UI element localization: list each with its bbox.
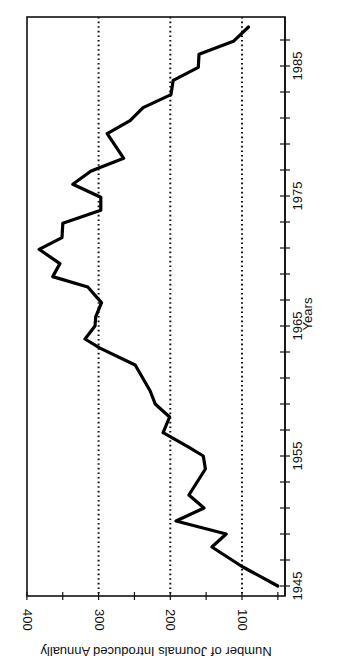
y-axis-label: Number of Journals Introduced Annually	[40, 644, 272, 659]
x-tick-label: 1975	[290, 182, 305, 211]
dotted-gridlines	[99, 17, 242, 596]
x-tick-label: 1955	[290, 442, 305, 471]
x-tick-label: 1985	[290, 52, 305, 81]
y-tick-label: 400	[20, 609, 35, 631]
journals-line-chart: 19451955196519751985 100200300400 Years …	[0, 0, 337, 665]
value-axis-ticks: 100200300400	[20, 592, 278, 631]
y-tick-label: 300	[92, 609, 107, 631]
x-tick-label: 1945	[290, 572, 305, 601]
plot-frame	[27, 17, 285, 596]
x-axis-label: Years	[300, 297, 315, 330]
y-tick-label: 200	[163, 609, 178, 631]
series-line	[39, 27, 278, 586]
y-tick-label: 100	[235, 609, 250, 631]
